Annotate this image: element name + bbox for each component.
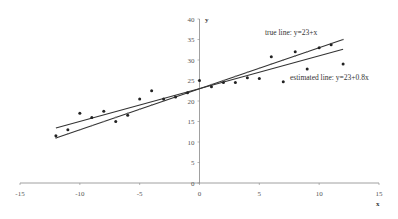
data-point xyxy=(270,55,273,58)
x-tick-label: 15 xyxy=(376,190,384,198)
data-point xyxy=(138,97,141,100)
true-line-marker xyxy=(91,125,93,127)
scatter-chart: -15-10-50510150510152025303540 y x true … xyxy=(0,0,398,219)
x-tick-label: 5 xyxy=(258,190,262,198)
data-point xyxy=(222,81,225,84)
x-tick-label: 10 xyxy=(316,190,324,198)
true-line-marker xyxy=(271,63,273,65)
estimated-line-annotation: estimated line: y=23+0.8x xyxy=(290,73,369,82)
data-point xyxy=(282,80,285,83)
y-tick-label: 0 xyxy=(191,180,195,188)
data-point xyxy=(90,116,93,119)
y-tick-label: 25 xyxy=(188,77,196,85)
y-tick-label: 35 xyxy=(188,36,196,44)
data-point xyxy=(174,95,177,98)
true-line-marker xyxy=(103,121,105,123)
true-line-marker xyxy=(151,104,153,106)
data-point xyxy=(66,128,69,131)
y-tick-label: 5 xyxy=(191,159,195,167)
data-point xyxy=(126,114,129,117)
data-point xyxy=(210,85,213,88)
true-line-marker xyxy=(306,51,308,53)
y-tick-label: 30 xyxy=(188,57,196,65)
y-tick-label: 40 xyxy=(188,16,196,24)
true-line-marker xyxy=(235,76,237,78)
y-tick-label: 15 xyxy=(188,118,196,126)
data-point xyxy=(102,110,105,113)
data-point xyxy=(78,112,81,115)
x-tick-label: -5 xyxy=(137,190,143,198)
axes xyxy=(20,19,379,185)
data-point xyxy=(330,43,333,46)
true-line-marker xyxy=(139,108,141,110)
y-axis-title: y xyxy=(205,16,209,24)
true-line-marker xyxy=(259,67,261,69)
x-tick-label: -10 xyxy=(75,190,85,198)
data-point xyxy=(54,134,57,137)
true-line-marker xyxy=(294,55,296,57)
true-line-marker xyxy=(79,129,81,131)
data-point xyxy=(114,120,117,123)
y-tick-label: 20 xyxy=(188,98,196,106)
data-point xyxy=(294,50,297,53)
data-point xyxy=(258,77,261,80)
x-tick-label: -15 xyxy=(15,190,25,198)
data-point xyxy=(198,79,201,82)
true-line-marker xyxy=(342,39,344,41)
data-point xyxy=(186,91,189,94)
true-line-marker xyxy=(247,72,249,74)
data-point xyxy=(150,89,153,92)
true-line-annotation: true line: y=23+x xyxy=(265,28,317,37)
y-tick-label: 10 xyxy=(188,139,196,147)
data-point xyxy=(162,97,165,100)
data-point xyxy=(342,63,345,66)
data-point xyxy=(234,81,237,84)
data-point xyxy=(246,76,249,79)
true-line-marker xyxy=(67,133,69,135)
x-tick-label: 0 xyxy=(198,190,202,198)
data-point xyxy=(318,46,321,49)
true-line-marker xyxy=(115,117,117,119)
data-point xyxy=(306,68,309,71)
true-line-marker xyxy=(282,59,284,61)
x-axis-title: x xyxy=(376,200,380,208)
